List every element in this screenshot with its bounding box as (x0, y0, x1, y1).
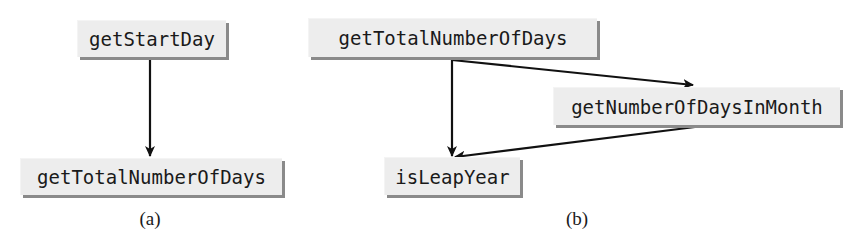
method-call-diagram: getStartDay getTotalNumberOfDays (a) get… (0, 0, 861, 247)
edge-getTotalNumberOfDays-to-getNumberOfDaysInMonth (452, 60, 693, 85)
node-isLeapYear: isLeapYear (384, 157, 520, 195)
node-getTotalNumberOfDays-a: getTotalNumberOfDays (20, 158, 282, 195)
caption-a: (a) (139, 208, 160, 230)
caption-b: (b) (566, 208, 588, 230)
node-getStartDay: getStartDay (77, 20, 226, 57)
edge-getNumberOfDaysInMonth-to-isLeapYear (455, 127, 695, 157)
node-getNumberOfDaysInMonth: getNumberOfDaysInMonth (553, 87, 840, 125)
node-getTotalNumberOfDays-b: getTotalNumberOfDays (308, 18, 597, 57)
